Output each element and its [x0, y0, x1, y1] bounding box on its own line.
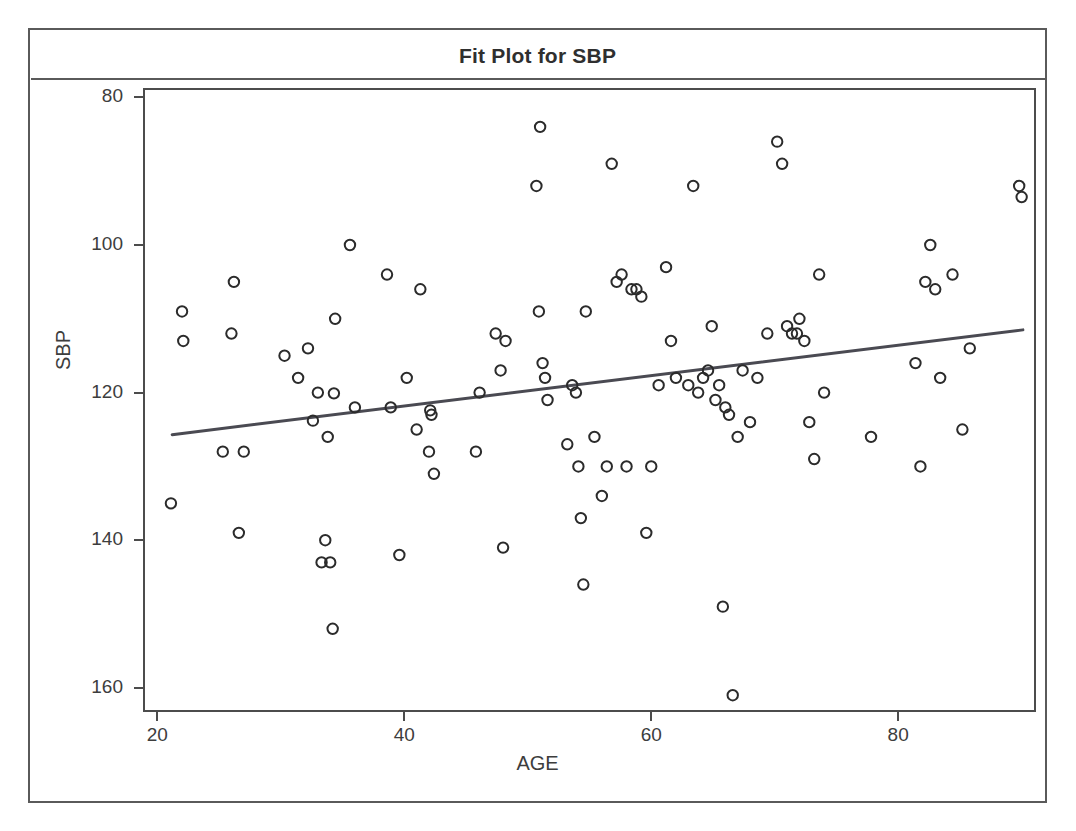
data-point[interactable]: [320, 535, 330, 545]
data-point[interactable]: [490, 328, 500, 338]
data-point[interactable]: [666, 336, 676, 346]
data-point[interactable]: [693, 387, 703, 397]
data-point[interactable]: [234, 528, 244, 538]
data-point[interactable]: [329, 388, 339, 398]
data-point[interactable]: [402, 373, 412, 383]
data-point[interactable]: [925, 240, 935, 250]
data-point[interactable]: [930, 284, 940, 294]
data-point[interactable]: [957, 424, 967, 434]
data-point[interactable]: [819, 387, 829, 397]
data-point[interactable]: [345, 240, 355, 250]
data-point[interactable]: [947, 269, 957, 279]
data-point[interactable]: [772, 136, 782, 146]
data-point[interactable]: [752, 373, 762, 383]
data-point[interactable]: [178, 336, 188, 346]
x-tick-label: 40: [374, 724, 434, 746]
data-point[interactable]: [581, 306, 591, 316]
y-tick-mark: [134, 244, 143, 246]
data-point[interactable]: [177, 306, 187, 316]
data-point[interactable]: [293, 373, 303, 383]
data-point[interactable]: [218, 446, 228, 456]
data-point[interactable]: [382, 269, 392, 279]
data-point[interactable]: [653, 380, 663, 390]
data-point[interactable]: [714, 380, 724, 390]
data-point[interactable]: [415, 284, 425, 294]
data-point[interactable]: [965, 343, 975, 353]
data-point[interactable]: [732, 432, 742, 442]
data-point[interactable]: [166, 498, 176, 508]
data-point[interactable]: [710, 395, 720, 405]
data-point[interactable]: [537, 358, 547, 368]
data-point[interactable]: [621, 461, 631, 471]
data-point[interactable]: [597, 491, 607, 501]
data-point[interactable]: [762, 328, 772, 338]
data-point[interactable]: [602, 461, 612, 471]
data-point[interactable]: [688, 181, 698, 191]
data-point[interactable]: [671, 373, 681, 383]
data-point[interactable]: [935, 373, 945, 383]
data-point[interactable]: [471, 446, 481, 456]
data-point[interactable]: [411, 424, 421, 434]
data-point[interactable]: [534, 306, 544, 316]
data-point[interactable]: [540, 373, 550, 383]
data-point[interactable]: [535, 122, 545, 132]
data-point[interactable]: [607, 159, 617, 169]
x-tick-mark: [403, 712, 405, 721]
data-point[interactable]: [498, 542, 508, 552]
data-point[interactable]: [737, 365, 747, 375]
data-point[interactable]: [777, 159, 787, 169]
data-point[interactable]: [794, 314, 804, 324]
data-point[interactable]: [327, 624, 337, 634]
y-axis-title: SBP: [52, 330, 75, 370]
plot-area[interactable]: [143, 88, 1036, 712]
data-point[interactable]: [394, 550, 404, 560]
data-point[interactable]: [866, 432, 876, 442]
x-tick-mark: [650, 712, 652, 721]
data-point[interactable]: [915, 461, 925, 471]
data-point[interactable]: [531, 181, 541, 191]
data-point[interactable]: [728, 690, 738, 700]
data-point[interactable]: [424, 446, 434, 456]
y-tick-label: 120: [91, 381, 123, 403]
data-point[interactable]: [718, 601, 728, 611]
data-point[interactable]: [809, 454, 819, 464]
y-tick-mark: [134, 392, 143, 394]
data-point[interactable]: [330, 314, 340, 324]
data-point[interactable]: [589, 432, 599, 442]
data-point[interactable]: [313, 387, 323, 397]
data-point[interactable]: [576, 513, 586, 523]
data-point[interactable]: [804, 417, 814, 427]
x-tick-mark: [897, 712, 899, 721]
data-point[interactable]: [303, 343, 313, 353]
data-point[interactable]: [500, 336, 510, 346]
data-point[interactable]: [814, 269, 824, 279]
data-point[interactable]: [429, 469, 439, 479]
data-point[interactable]: [641, 528, 651, 538]
data-point[interactable]: [646, 461, 656, 471]
data-point[interactable]: [578, 579, 588, 589]
data-point[interactable]: [920, 277, 930, 287]
figure-frame: Fit Plot for SBP SBP AGE 16014012010080 …: [28, 28, 1047, 803]
data-point[interactable]: [1016, 192, 1026, 202]
data-point[interactable]: [279, 351, 289, 361]
data-point[interactable]: [239, 446, 249, 456]
data-point[interactable]: [562, 439, 572, 449]
data-point[interactable]: [542, 395, 552, 405]
x-axis-title: AGE: [30, 752, 1045, 775]
scatter-plot-svg: [145, 90, 1034, 710]
data-point[interactable]: [226, 328, 236, 338]
data-point[interactable]: [910, 358, 920, 368]
data-point[interactable]: [683, 380, 693, 390]
data-point[interactable]: [573, 461, 583, 471]
y-tick-mark: [134, 96, 143, 98]
data-point[interactable]: [229, 277, 239, 287]
data-point[interactable]: [707, 321, 717, 331]
data-point[interactable]: [661, 262, 671, 272]
data-point[interactable]: [745, 417, 755, 427]
y-tick-label: 140: [91, 528, 123, 550]
data-point[interactable]: [323, 432, 333, 442]
data-point[interactable]: [1014, 181, 1024, 191]
data-point[interactable]: [799, 336, 809, 346]
x-tick-mark: [156, 712, 158, 721]
data-point[interactable]: [495, 365, 505, 375]
